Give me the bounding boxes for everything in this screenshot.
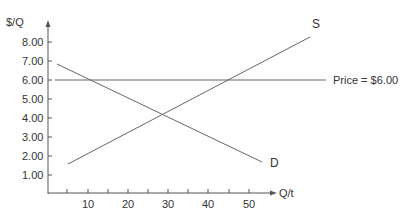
y-tick-label: 1.00 — [22, 169, 43, 181]
x-axis-arrow-icon — [270, 191, 277, 196]
y-axis-arrow-icon — [46, 20, 51, 27]
x-tick-label: 40 — [202, 198, 214, 210]
y-tick-label: 3.00 — [22, 131, 43, 143]
x-ticks — [67, 189, 249, 193]
supply-demand-chart: $/Q Q/t 8.00 7.00 6.00 5.00 4.00 3.00 2.… — [0, 0, 417, 218]
x-tick-label: 10 — [82, 198, 94, 210]
supply-curve — [68, 37, 310, 164]
y-ticks — [48, 42, 52, 175]
x-tick-label: 20 — [122, 198, 134, 210]
y-axis-label: $/Q — [6, 16, 24, 28]
y-tick-label: 6.00 — [22, 74, 43, 86]
x-tick-label: 30 — [162, 198, 174, 210]
y-tick-label: 2.00 — [22, 150, 43, 162]
y-tick-label: 8.00 — [22, 36, 43, 48]
x-axis-label: Q/t — [279, 187, 294, 199]
supply-label: S — [312, 17, 320, 31]
y-tick-label: 5.00 — [22, 93, 43, 105]
demand-label: D — [270, 156, 279, 170]
y-tick-label: 4.00 — [22, 112, 43, 124]
price-label: Price = $6.00 — [333, 74, 398, 86]
x-tick-label: 50 — [243, 198, 255, 210]
y-tick-label: 7.00 — [22, 55, 43, 67]
